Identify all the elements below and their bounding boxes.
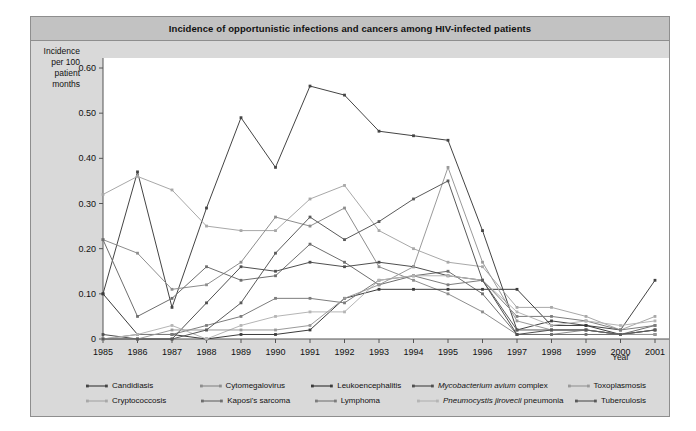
legend-line-icon	[568, 382, 590, 390]
y-axis-title-line-1: Incidence	[18, 46, 80, 57]
legend-item-label: Candidiasis	[112, 381, 153, 391]
legend-item[interactable]: Pneumocystis jirovecii pneumonia	[417, 396, 575, 406]
legend-item[interactable]: Mycobacterium avium complex	[412, 381, 568, 391]
chart-legend: CandidiasisCytomegalovirusLeukoencephali…	[86, 378, 646, 408]
y-axis-title: Incidence per 100 patient months	[18, 46, 80, 90]
legend-row: CryptococcosisKaposi's sarcomaLymphomaPn…	[86, 393, 646, 408]
figure-title: Incidence of opportunistic infections an…	[169, 23, 531, 34]
legend-item-label: Cryptococcosis	[112, 396, 166, 406]
y-axis-title-line-3: patient	[18, 68, 80, 79]
legend-item[interactable]: Candidiasis	[86, 381, 200, 391]
legend-item-label: Tuberculosis	[601, 396, 646, 406]
legend-item-label: Toxoplasmosis	[594, 381, 646, 391]
screenshot-root: Incidence of opportunistic infections an…	[0, 0, 696, 431]
legend-item[interactable]: Lymphoma	[315, 396, 417, 406]
legend-row: CandidiasisCytomegalovirusLeukoencephali…	[86, 378, 646, 393]
legend-item-label: Pneumocystis jirovecii pneumonia	[443, 396, 564, 406]
legend-line-icon	[575, 397, 597, 405]
y-axis-title-line-4: months	[18, 79, 80, 90]
legend-line-icon	[201, 397, 223, 405]
legend-item[interactable]: Toxoplasmosis	[568, 381, 646, 391]
legend-item-label: Kaposi's sarcoma	[227, 396, 290, 406]
legend-line-icon	[417, 397, 439, 405]
x-axis-title: Year	[612, 352, 664, 362]
legend-item[interactable]: Kaposi's sarcoma	[201, 396, 314, 406]
legend-item-label: Cytomegalovirus	[226, 381, 286, 391]
legend-item-label: Mycobacterium avium complex	[438, 381, 548, 391]
figure-title-bar: Incidence of opportunistic infections an…	[31, 17, 669, 41]
legend-line-icon	[200, 382, 222, 390]
legend-line-icon	[412, 382, 434, 390]
legend-item[interactable]: Cytomegalovirus	[200, 381, 312, 391]
legend-item-label: Lymphoma	[341, 396, 380, 406]
legend-item-label: Leukoencephalitis	[337, 381, 401, 391]
figure-panel: Incidence of opportunistic infections an…	[30, 16, 670, 417]
legend-line-icon	[86, 397, 108, 405]
legend-line-icon	[311, 382, 333, 390]
legend-line-icon	[315, 397, 337, 405]
y-axis-title-line-2: per 100	[18, 57, 80, 68]
legend-item[interactable]: Cryptococcosis	[86, 396, 201, 406]
legend-item[interactable]: Tuberculosis	[575, 396, 646, 406]
figure-caption-fragment	[30, 424, 670, 431]
legend-item[interactable]: Leukoencephalitis	[311, 381, 412, 391]
legend-line-icon	[86, 382, 108, 390]
